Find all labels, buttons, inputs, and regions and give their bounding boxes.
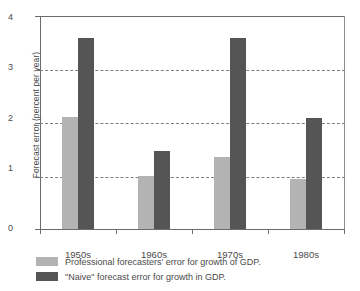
legend-item-naive: "Naive" forecast error for growth in GDP… bbox=[36, 269, 261, 284]
x-tick-1 bbox=[116, 229, 117, 234]
forecast-error-bar-chart: Forecast error (percent per year) 4 3 2 … bbox=[0, 0, 360, 291]
y-tick-1 bbox=[35, 177, 40, 178]
x-tick-2 bbox=[192, 229, 193, 234]
x-tick-label-1980s: 1980s bbox=[271, 249, 341, 260]
plot-top-border bbox=[40, 16, 345, 17]
y-tick-label-0: 0 bbox=[0, 223, 13, 233]
bar-1960s-naive bbox=[154, 151, 170, 229]
y-tick-label-4: 4 bbox=[0, 12, 13, 22]
x-tick-4 bbox=[344, 229, 345, 234]
x-tick-3 bbox=[268, 229, 269, 234]
y-tick-label-1: 1 bbox=[0, 163, 13, 173]
y-tick-label-3: 3 bbox=[0, 62, 13, 72]
legend-swatch-naive bbox=[36, 272, 58, 281]
bar-1980s-naive bbox=[306, 118, 322, 229]
legend-swatch-professional bbox=[36, 257, 58, 266]
legend-label-professional: Professional forecasters' error for grow… bbox=[65, 257, 261, 267]
bar-1960s-professional bbox=[138, 176, 154, 230]
y-tick-2 bbox=[35, 123, 40, 124]
y-tick-4 bbox=[35, 16, 40, 17]
legend-label-naive: "Naive" forecast error for growth in GDP… bbox=[65, 272, 226, 282]
x-tick-0 bbox=[40, 229, 41, 234]
plot-area: 1950s 1960s 1970s 1980s bbox=[40, 16, 345, 230]
bar-1970s-naive bbox=[230, 38, 246, 230]
bar-1950s-professional bbox=[62, 117, 78, 229]
y-tick-label-2: 2 bbox=[0, 113, 13, 123]
bar-1970s-professional bbox=[214, 157, 230, 229]
y-tick-3 bbox=[35, 70, 40, 71]
legend-item-professional: Professional forecasters' error for grow… bbox=[36, 254, 261, 269]
chart-legend: Professional forecasters' error for grow… bbox=[36, 254, 261, 284]
bar-1950s-naive bbox=[78, 38, 94, 229]
bar-1980s-professional bbox=[290, 179, 306, 229]
